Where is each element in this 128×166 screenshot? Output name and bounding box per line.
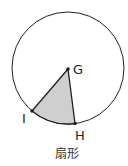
label-h: H <box>75 129 85 142</box>
sector-shaded <box>32 69 75 124</box>
label-i: I <box>22 112 26 125</box>
point-h <box>73 122 77 126</box>
point-i <box>30 109 34 113</box>
label-g: G <box>73 63 83 76</box>
caption: 扇形 <box>55 148 79 160</box>
point-g <box>66 67 70 71</box>
sector-diagram <box>0 0 128 166</box>
